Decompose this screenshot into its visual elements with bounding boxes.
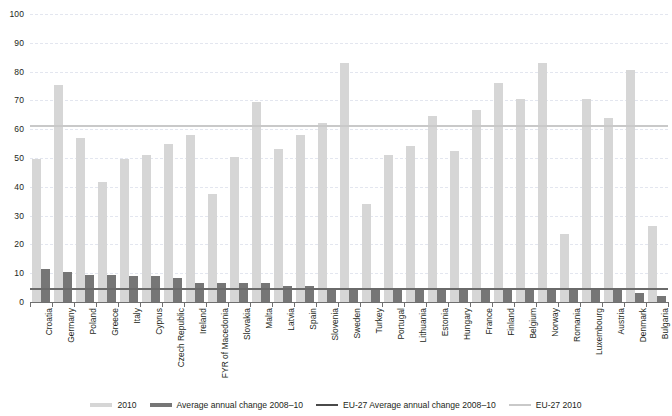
y-tick-label: 70 [14,96,24,105]
bar-avg-annual-change[interactable] [569,290,578,302]
bars-layer [30,0,668,302]
x-axis-label: Romania [573,308,582,342]
bar-2010[interactable] [582,99,591,302]
bar-2010[interactable] [604,118,613,302]
bar-group[interactable] [228,0,250,302]
legend-item[interactable]: 2010 [90,400,136,410]
bar-group[interactable] [140,0,162,302]
bar-avg-annual-change[interactable] [613,290,622,302]
bar-2010[interactable] [164,144,173,302]
bar-2010[interactable] [186,135,195,302]
reference-line-eu27-change [30,288,668,290]
bar-avg-annual-change[interactable] [459,290,468,302]
x-axis-label: Italy [133,308,142,324]
bar-2010[interactable] [406,146,415,302]
bar-group[interactable] [360,0,382,302]
bar-2010[interactable] [560,234,569,302]
y-tick-label: 60 [14,125,24,134]
bar-group[interactable] [426,0,448,302]
bar-2010[interactable] [98,182,107,302]
bar-group[interactable] [184,0,206,302]
bar-avg-annual-change[interactable] [635,293,644,302]
bar-group[interactable] [272,0,294,302]
bar-2010[interactable] [318,123,327,302]
bar-2010[interactable] [450,151,459,302]
bar-group[interactable] [96,0,118,302]
bar-group[interactable] [162,0,184,302]
bar-group[interactable] [514,0,536,302]
bar-group[interactable] [52,0,74,302]
legend-item[interactable]: EU-27 Average annual change 2008–10 [316,400,496,410]
y-tick-label: 80 [14,67,24,76]
bar-2010[interactable] [274,149,283,302]
bar-avg-annual-change[interactable] [195,283,204,302]
x-axis-label: Hungary [463,308,472,340]
bar-2010[interactable] [626,70,635,302]
bar-avg-annual-change[interactable] [503,290,512,302]
bar-avg-annual-change[interactable] [41,269,50,302]
legend-item[interactable]: Average annual change 2008–10 [150,400,303,410]
y-tick-label: 40 [14,183,24,192]
x-axis-label: France [485,308,494,334]
bar-group[interactable] [250,0,272,302]
x-axis-label: Greece [111,308,120,336]
bar-avg-annual-change[interactable] [591,290,600,302]
bar-2010[interactable] [296,135,305,302]
bar-2010[interactable] [54,85,63,302]
bar-avg-annual-change[interactable] [217,283,226,302]
bar-group[interactable] [492,0,514,302]
bar-2010[interactable] [208,194,217,302]
bar-group[interactable] [624,0,646,302]
bar-group[interactable] [580,0,602,302]
bar-group[interactable] [558,0,580,302]
bar-group[interactable] [448,0,470,302]
bar-avg-annual-change[interactable] [481,290,490,302]
bar-2010[interactable] [230,157,239,302]
bar-group[interactable] [646,0,668,302]
x-tick [602,302,603,307]
bar-2010[interactable] [340,63,349,302]
bar-group[interactable] [470,0,492,302]
bar-group[interactable] [118,0,140,302]
bar-2010[interactable] [142,155,151,302]
bar-2010[interactable] [494,83,503,302]
bar-2010[interactable] [384,155,393,302]
bar-group[interactable] [294,0,316,302]
legend-swatch [90,403,112,407]
bar-2010[interactable] [252,102,261,302]
x-axis-label: Norway [551,308,560,337]
legend-label: Average annual change 2008–10 [177,400,303,410]
x-tick [360,302,361,307]
legend-item[interactable]: EU-27 2010 [509,400,582,410]
legend-swatch [509,404,531,406]
bar-avg-annual-change[interactable] [63,272,72,302]
bar-group[interactable] [206,0,228,302]
bar-avg-annual-change[interactable] [547,290,556,302]
bar-2010[interactable] [120,159,129,302]
x-tick [668,302,669,307]
bar-group[interactable] [338,0,360,302]
bar-group[interactable] [602,0,624,302]
legend-swatch [316,404,338,406]
bar-group[interactable] [74,0,96,302]
bar-2010[interactable] [32,159,41,302]
bar-avg-annual-change[interactable] [525,290,534,302]
x-axis-label: Sweden [353,308,362,339]
x-tick [118,302,119,307]
bar-2010[interactable] [516,99,525,302]
bar-2010[interactable] [472,110,481,302]
bar-group[interactable] [404,0,426,302]
x-tick [228,302,229,307]
bar-2010[interactable] [76,138,85,302]
bar-group[interactable] [30,0,52,302]
bar-avg-annual-change[interactable] [261,283,270,302]
bar-2010[interactable] [428,116,437,302]
bar-2010[interactable] [538,63,547,302]
bar-avg-annual-change[interactable] [239,283,248,302]
legend-swatch [150,403,172,407]
bar-group[interactable] [382,0,404,302]
x-tick [624,302,625,307]
bar-2010[interactable] [648,226,657,302]
bar-group[interactable] [316,0,338,302]
bar-group[interactable] [536,0,558,302]
